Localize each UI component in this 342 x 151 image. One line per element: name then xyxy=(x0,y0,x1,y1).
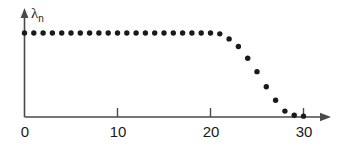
x-axis-arrow-icon xyxy=(320,113,331,121)
y-axis-label-subscript: n xyxy=(38,13,44,24)
data-point xyxy=(217,31,222,36)
data-point xyxy=(115,30,120,35)
data-point xyxy=(133,30,138,35)
y-axis-label: λn xyxy=(31,6,44,24)
data-point xyxy=(292,113,297,118)
data-point xyxy=(254,69,259,74)
x-tick-label-30: 30 xyxy=(291,124,317,139)
data-point xyxy=(236,44,241,49)
data-point xyxy=(282,108,287,113)
data-point xyxy=(22,30,27,35)
data-point xyxy=(180,30,185,35)
chart-container: 0 10 20 30 λn xyxy=(0,0,342,151)
data-point xyxy=(68,30,73,35)
data-point xyxy=(87,30,92,35)
data-point xyxy=(31,30,36,35)
data-point xyxy=(171,30,176,35)
data-point xyxy=(78,30,83,35)
data-point xyxy=(50,30,55,35)
data-point xyxy=(264,84,269,89)
data-point xyxy=(106,30,111,35)
data-point xyxy=(96,30,101,35)
data-point xyxy=(273,98,278,103)
data-point xyxy=(124,30,129,35)
data-point xyxy=(226,36,231,41)
data-point-group xyxy=(22,30,306,119)
x-axis-ticks xyxy=(118,108,304,117)
x-tick-label-20: 20 xyxy=(198,124,224,139)
data-point xyxy=(161,30,166,35)
data-point xyxy=(301,113,306,118)
x-tick-label-10: 10 xyxy=(105,124,131,139)
data-point xyxy=(189,30,194,35)
data-point xyxy=(40,30,45,35)
data-point xyxy=(59,30,64,35)
data-point xyxy=(152,30,157,35)
x-tick-label-0: 0 xyxy=(16,124,34,139)
data-point xyxy=(245,56,250,61)
y-axis-arrow-icon xyxy=(21,8,29,18)
data-point xyxy=(208,30,213,35)
data-point xyxy=(143,30,148,35)
data-point xyxy=(199,30,204,35)
